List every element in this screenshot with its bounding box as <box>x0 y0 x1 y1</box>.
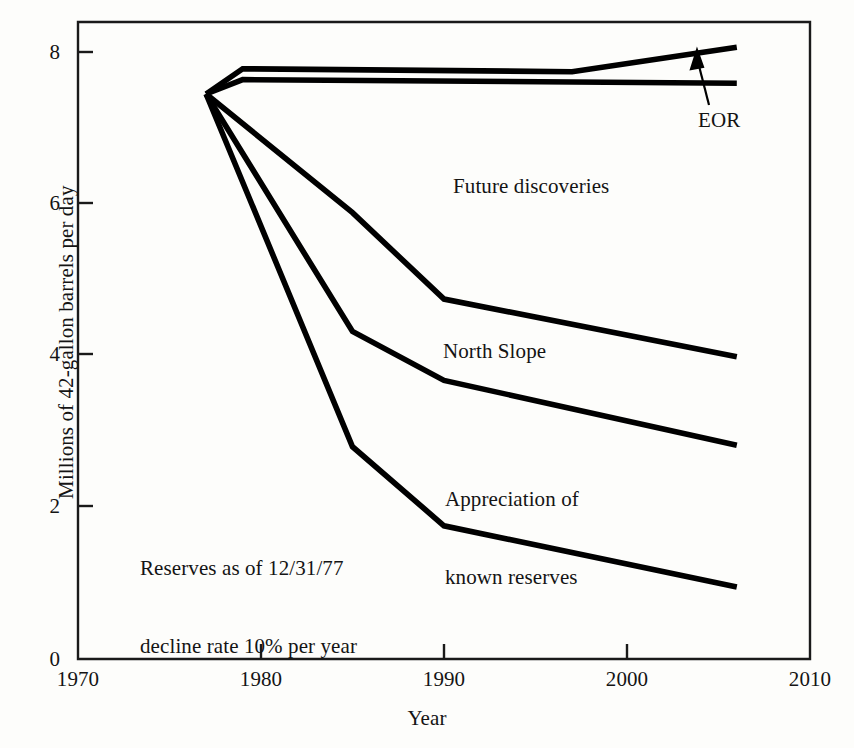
annotation-eor: EOR <box>698 108 740 132</box>
y-axis-title: Millions of 42-gallon barrels per day <box>54 82 78 602</box>
x-axis-title: Year <box>0 706 854 730</box>
y-tick-label-8: 8 <box>20 40 60 64</box>
annotation-north-slope: North Slope <box>443 339 546 363</box>
x-tick-label-1970: 1970 <box>33 667 123 691</box>
y-tick-marks <box>78 52 93 506</box>
series-north-slope <box>206 94 737 445</box>
annotation-reserves-decline: Reserves as of 12/31/77 decline rate 10%… <box>140 502 357 712</box>
annotation-appreciation-line1: Appreciation of <box>445 486 579 512</box>
series-total-including-eor <box>206 47 737 94</box>
x-tick-label-1990: 1990 <box>399 667 489 691</box>
x-tick-label-2010: 2010 <box>765 667 854 691</box>
annotation-appreciation-known-reserves: Appreciation of known reserves <box>445 433 579 643</box>
annotation-future-discoveries: Future discoveries <box>453 174 609 198</box>
annotation-reserves-line2: decline rate 10% per year <box>140 633 357 659</box>
chart-figure: 8 6 4 2 0 1970 1980 1990 2000 2010 Year … <box>0 0 854 748</box>
series-eor-baseline <box>206 80 737 94</box>
x-tick-label-2000: 2000 <box>582 667 672 691</box>
eor-arrow <box>691 50 709 105</box>
annotation-appreciation-line2: known reserves <box>445 564 579 590</box>
annotation-reserves-line1: Reserves as of 12/31/77 <box>140 555 357 581</box>
